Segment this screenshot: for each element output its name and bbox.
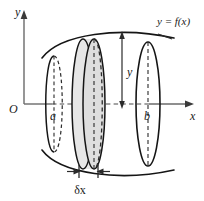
- radius-arrowhead-bottom: [119, 101, 125, 109]
- y-axis-arrowhead: [21, 10, 28, 19]
- thickness-label: δx: [74, 183, 86, 197]
- x-axis-label: x: [189, 109, 196, 123]
- radius-label: y: [126, 65, 133, 79]
- figure-canvas: y x O a b y δx y = f(x): [0, 0, 204, 201]
- bound-label-a: a: [50, 109, 56, 123]
- function-label: y = f(x): [156, 15, 190, 28]
- radius-measure-arrow: [119, 31, 125, 109]
- solid-of-revolution-figure: y x O a b y δx y = f(x): [0, 0, 204, 201]
- y-axis-label: y: [14, 5, 21, 19]
- elemental-disc: [72, 39, 105, 169]
- bound-label-b: b: [144, 109, 150, 123]
- x-axis-arrowhead: [185, 101, 194, 108]
- curve-upper-profile: [42, 32, 174, 58]
- origin-label: O: [9, 102, 18, 116]
